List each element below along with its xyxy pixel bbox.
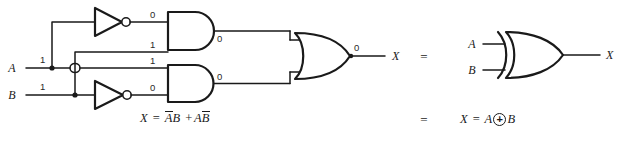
formula-xor-operand-b: B xyxy=(507,112,515,126)
formula-sop-equals: = xyxy=(151,111,161,125)
inverter-a-triangle xyxy=(95,8,122,36)
and-gate-top xyxy=(168,12,214,50)
inverter-b-triangle xyxy=(95,81,123,109)
formula-sop-term2-b-bar: B xyxy=(202,111,210,125)
xor-input-label-a: A xyxy=(467,37,476,51)
equals-sign-bottom: = xyxy=(420,112,427,127)
xor-circled-plus-icon xyxy=(493,113,506,126)
formula-sop-term2-a: A xyxy=(194,111,202,125)
formula-xor-operand-a: A xyxy=(485,112,493,126)
value-b-input: 1 xyxy=(40,81,45,92)
logic-diagram-figure: A B 1 1 0 1 1 0 0 0 0 X A B X = = X = AB… xyxy=(0,0,619,142)
xor-gate xyxy=(506,32,563,78)
value-and-top-out: 0 xyxy=(217,33,222,44)
formula-sop-lhs: X xyxy=(140,111,148,125)
or-gate xyxy=(295,33,350,79)
formula-sop-term1-a-bar: A xyxy=(165,111,173,125)
wire-a-branch-to-inverter xyxy=(52,22,95,68)
output-label-x-left: X xyxy=(391,49,400,63)
inverter-b-bubble xyxy=(123,91,131,99)
value-or-out: 0 xyxy=(354,42,359,53)
and-gate-bottom xyxy=(168,65,214,102)
value-and-bottom-in1: 1 xyxy=(150,55,155,66)
xor-outer-arc xyxy=(498,32,506,78)
value-a-input: 1 xyxy=(40,54,45,65)
formula-xor-lhs: X xyxy=(460,112,468,126)
value-and-top-in2: 1 xyxy=(150,39,155,50)
formula-sop-term1-b: B xyxy=(173,111,181,125)
circuit-schematic: A B 1 1 0 1 1 0 0 0 0 X A B X = = xyxy=(0,0,619,142)
junction-dot-b xyxy=(72,92,77,97)
inverter-a-bubble xyxy=(122,18,130,26)
formula-xor-equals: = xyxy=(471,112,481,126)
value-and-bottom-out: 0 xyxy=(217,71,222,82)
value-inv-b-out: 0 xyxy=(150,82,155,93)
input-label-b: B xyxy=(8,88,16,102)
xor-input-label-b: B xyxy=(468,63,476,77)
junction-dot-a xyxy=(49,65,54,70)
formula-xor: X = AB xyxy=(460,112,515,127)
equals-sign-top: = xyxy=(420,49,427,64)
value-inv-a-out: 0 xyxy=(150,9,155,20)
input-label-a: A xyxy=(7,61,16,75)
formula-sop-plus: + xyxy=(184,111,194,125)
formula-sum-of-products: X = AB +AB xyxy=(140,111,210,126)
output-label-x-right: X xyxy=(605,48,614,62)
